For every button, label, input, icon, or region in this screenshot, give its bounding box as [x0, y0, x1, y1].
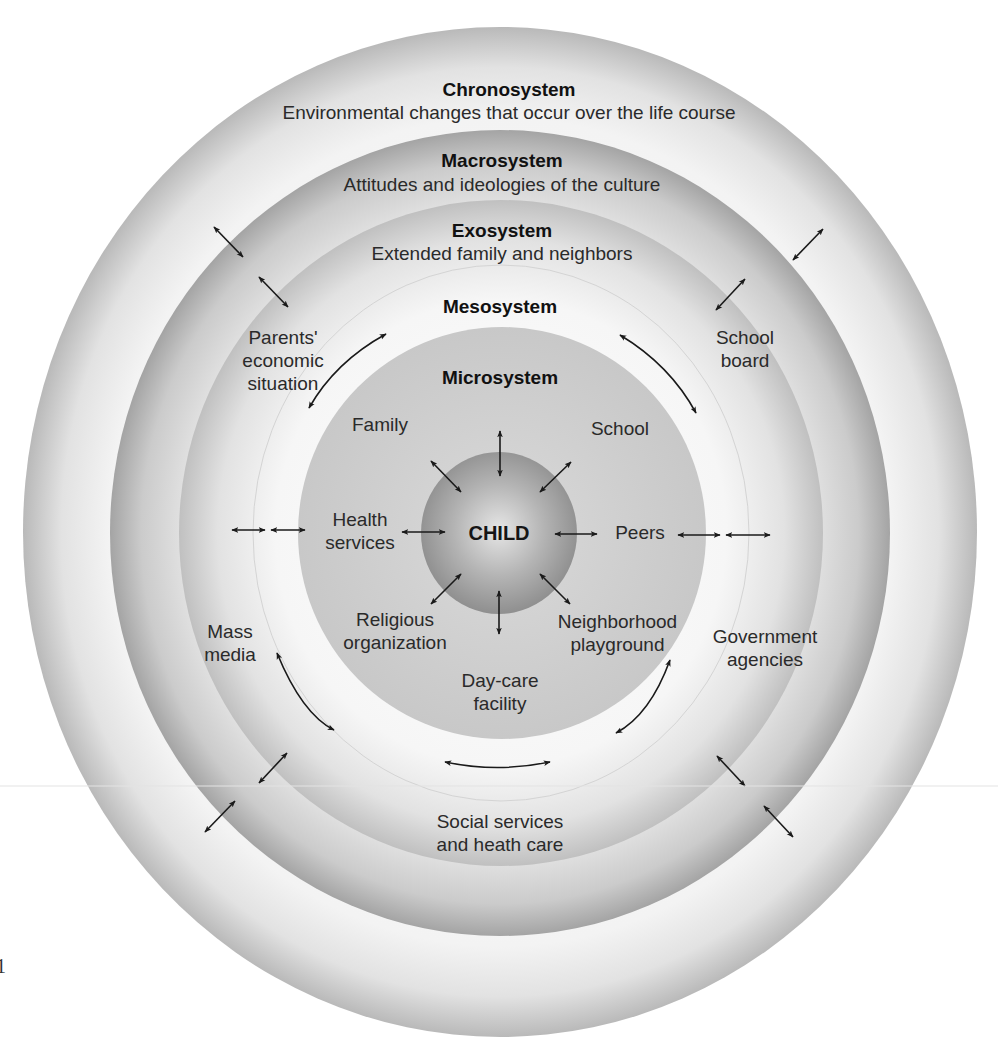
daycare-line-2: facility — [435, 693, 565, 716]
school-board-line-1: School — [690, 327, 800, 350]
day-care-facility-label: Day-care facility — [435, 670, 565, 716]
mass-media-label: Mass media — [190, 621, 270, 667]
family-label: Family — [340, 414, 420, 437]
parents-economic-situation-label: Parents' economic situation — [218, 327, 348, 395]
social-services-label: Social services and heath care — [400, 811, 600, 857]
parents-line-2: economic — [218, 350, 348, 373]
peers-label: Peers — [605, 522, 675, 545]
school-board-line-2: board — [690, 350, 800, 373]
child-label: CHILD — [449, 522, 549, 544]
government-line-1: Government — [700, 626, 830, 649]
mass-media-line-2: media — [190, 644, 270, 667]
exosystem-title: Exosystem — [0, 220, 998, 241]
chronosystem-description: Environmental changes that occur over th… — [0, 102, 998, 123]
religious-line-1: Religious — [325, 609, 465, 632]
macrosystem-title: Macrosystem — [0, 150, 998, 171]
microsystem-title: Microsystem — [0, 367, 998, 388]
religious-organization-label: Religious organization — [325, 609, 465, 655]
mass-media-line-1: Mass — [190, 621, 270, 644]
parents-line-1: Parents' — [218, 327, 348, 350]
neighborhood-line-2: playground — [540, 634, 695, 657]
health-line-1: Health — [310, 509, 410, 532]
daycare-line-1: Day-care — [435, 670, 565, 693]
parents-line-3: situation — [218, 373, 348, 396]
government-agencies-label: Government agencies — [700, 626, 830, 672]
exosystem-description: Extended family and neighbors — [0, 243, 998, 264]
school-label: School — [580, 418, 660, 441]
health-services-label: Health services — [310, 509, 410, 555]
religious-line-2: organization — [325, 632, 465, 655]
school-board-label: School board — [690, 327, 800, 373]
page-fragment-text: 1 — [0, 955, 6, 978]
neighborhood-line-1: Neighborhood — [540, 611, 695, 634]
social-line-2: and heath care — [400, 834, 600, 857]
government-line-2: agencies — [700, 649, 830, 672]
chronosystem-title: Chronosystem — [0, 79, 998, 100]
social-line-1: Social services — [400, 811, 600, 834]
health-line-2: services — [310, 532, 410, 555]
mesosystem-title: Mesosystem — [0, 296, 998, 317]
macrosystem-description: Attitudes and ideologies of the culture — [0, 174, 998, 195]
neighborhood-playground-label: Neighborhood playground — [540, 611, 695, 657]
